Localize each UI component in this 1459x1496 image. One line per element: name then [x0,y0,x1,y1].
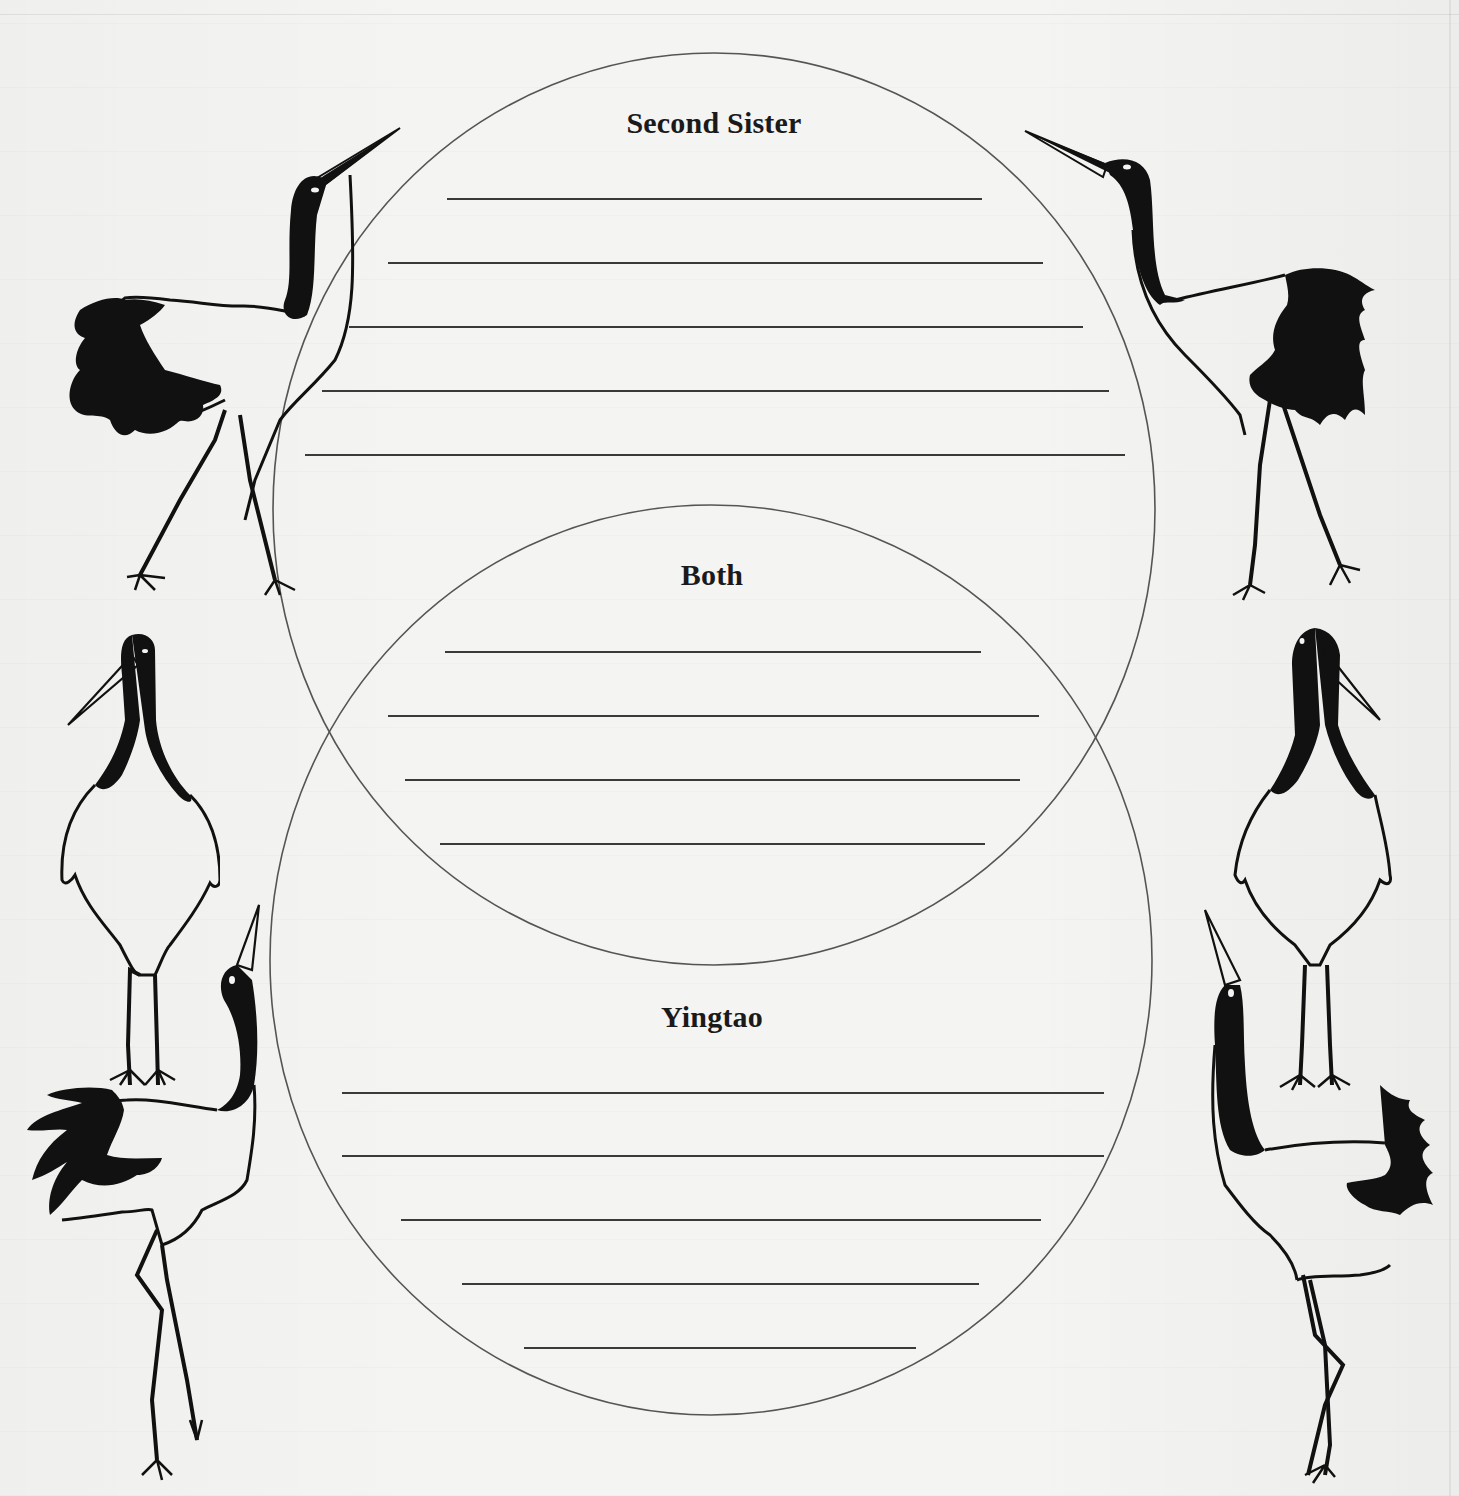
label-second-sister: Second Sister [626,106,801,140]
crane-dancing-top-left-icon [55,120,415,620]
write-line-overlap-1[interactable] [445,651,981,653]
oval-yingtao [270,505,1152,1415]
write-line-bottom-1[interactable] [342,1092,1104,1094]
label-yingtao: Yingtao [661,1000,763,1034]
write-line-top-3[interactable] [349,326,1083,328]
crane-calling-bottom-left-icon [12,900,302,1490]
write-line-top-5[interactable] [305,454,1125,456]
write-line-bottom-5[interactable] [524,1347,916,1349]
crane-calling-bottom-right-icon [1185,905,1445,1485]
write-line-overlap-4[interactable] [440,843,985,845]
write-line-top-4[interactable] [322,390,1109,392]
write-line-bottom-3[interactable] [401,1219,1041,1221]
write-line-bottom-4[interactable] [462,1283,979,1285]
write-line-bottom-2[interactable] [342,1155,1104,1157]
label-both: Both [681,558,744,592]
write-line-overlap-2[interactable] [388,715,1039,717]
write-line-overlap-3[interactable] [405,779,1020,781]
write-line-top-2[interactable] [388,262,1043,264]
write-line-top-1[interactable] [447,198,982,200]
crane-dancing-top-right-icon [1015,125,1395,605]
